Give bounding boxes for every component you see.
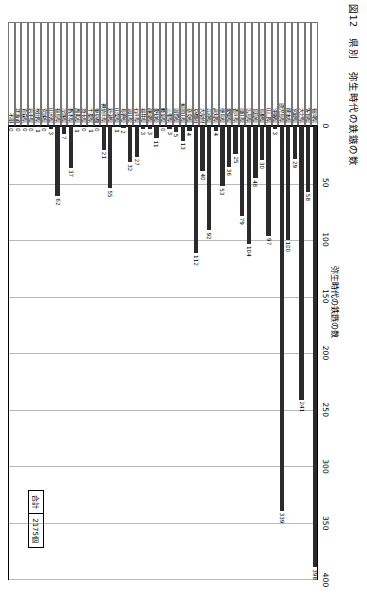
- bar-category-label: 長野県: [120, 22, 127, 126]
- bar-row: 鹿児島県339: [278, 22, 285, 580]
- bar: [247, 126, 251, 244]
- bar-track: 29: [292, 126, 299, 580]
- bar-track: 0: [21, 126, 28, 580]
- bar-value-label: 11: [153, 140, 159, 147]
- bar-value-label: 37: [68, 170, 74, 177]
- bar-row: 栃木県37: [67, 22, 74, 580]
- bar-value-label: 58: [305, 194, 311, 201]
- bar-track: 3: [48, 126, 55, 580]
- bar-row: 宮崎県29: [292, 22, 299, 580]
- bar: [253, 126, 257, 178]
- bar-category-label: 千葉県: [87, 22, 94, 126]
- bar-category-label: 佐賀県: [305, 22, 312, 126]
- bar: [88, 126, 92, 127]
- bar-row: 福島県62: [54, 22, 61, 580]
- x-tick-label: 100: [321, 232, 330, 246]
- bar-row: 富山県32: [127, 22, 134, 580]
- bar-row: 三重県3: [166, 22, 173, 580]
- bar-category-label: 福井県: [140, 22, 147, 126]
- bar-value-label: 3: [272, 131, 278, 135]
- bar-row: 愛知県11: [153, 22, 160, 580]
- bar-category-label: 高知県: [213, 22, 220, 126]
- bar-category-label: 三重県: [166, 22, 173, 126]
- bar: [299, 126, 303, 400]
- bar: [200, 126, 204, 171]
- x-tick-label: 200: [321, 346, 330, 360]
- bar-track: 27: [133, 126, 140, 580]
- bar-row: 山口県97: [265, 22, 272, 580]
- x-axis-ticks: 050100150200250300350400: [318, 126, 330, 580]
- bar-value-label: 92: [206, 232, 212, 239]
- bar-row: 石川県27: [133, 22, 140, 580]
- bar: [62, 126, 66, 134]
- bar-value-label: 1: [35, 129, 41, 133]
- bar-row: 岡山県79: [239, 22, 246, 580]
- bar-value-label: 0: [22, 128, 28, 132]
- bar: [194, 126, 198, 253]
- bar-track: 40: [199, 126, 206, 580]
- bar-category-label: 徳島県: [219, 22, 226, 126]
- bar-category-label: 秋田県: [34, 22, 41, 126]
- bar-value-label: 0: [41, 128, 47, 132]
- bar-row: 山形県3: [48, 22, 55, 580]
- bar-rows: 福岡県398佐賀県58大分県241宮崎県29熊本県100鹿児島県339沖縄県3山…: [8, 22, 318, 580]
- page-title: 図12 県別 弥生時代の鉄鏃の数: [347, 4, 361, 175]
- bar-value-label: 3: [147, 131, 153, 135]
- bar-row: 岐阜県0: [160, 22, 167, 580]
- bar-category-label: 宮城県: [41, 22, 48, 126]
- bar-track: 0: [15, 126, 22, 580]
- chart-plot-area: 弥生時代の鉄鏃の数 050100150200250300350400 福岡県39…: [8, 22, 341, 582]
- bar-row: 茨城県7: [61, 22, 68, 580]
- bar: [187, 126, 191, 131]
- bar-category-label: 青森県: [21, 22, 28, 126]
- bar-value-label: 25: [233, 156, 239, 163]
- bar: [102, 126, 106, 150]
- bar-row: 福岡県398: [311, 22, 318, 580]
- bar-track: 46: [252, 126, 259, 580]
- total-value: 2175個: [29, 514, 43, 547]
- bar-category-label: 不明: [8, 22, 15, 126]
- bar-category-label: 神奈川県: [100, 22, 107, 126]
- bar-category-label: 広島県: [245, 22, 252, 126]
- bar-track: 58: [305, 126, 312, 580]
- x-tick-label: 350: [321, 516, 330, 530]
- bar-category-label: 山口県: [265, 22, 272, 126]
- bar-category-label: 奈良県: [186, 22, 193, 126]
- bar-row: 島根県30: [259, 22, 266, 580]
- bar-track: 97: [265, 126, 272, 580]
- x-tick-label: 300: [321, 459, 330, 473]
- bar-track: 3: [272, 126, 279, 580]
- bar-category-label: 香川県: [232, 22, 239, 126]
- bar-category-label: 熊本県: [285, 22, 292, 126]
- bar-row: 北海道0: [15, 22, 22, 580]
- bar: [293, 126, 297, 159]
- bar: [273, 126, 277, 129]
- bar-category-label: 東京都: [94, 22, 101, 126]
- bar-value-label: 3: [48, 131, 54, 135]
- x-tick-label: 250: [321, 403, 330, 417]
- bar-row: 不明0: [8, 22, 15, 580]
- bar-row: 埼玉県0: [81, 22, 88, 580]
- bar-category-label: 岐阜県: [160, 22, 167, 126]
- bar-value-label: 5: [173, 134, 179, 138]
- bar-track: 3: [147, 126, 154, 580]
- bar-category-label: 富山県: [127, 22, 134, 126]
- bar-category-label: 宮崎県: [292, 22, 299, 126]
- bar-value-label: 97: [266, 238, 272, 245]
- bar: [286, 126, 290, 240]
- bar-track: 53: [219, 126, 226, 580]
- bar: [227, 126, 231, 167]
- bar-category-label: 沖縄県: [272, 22, 279, 126]
- bar-row: 青森県0: [21, 22, 28, 580]
- bar-track: 100: [285, 126, 292, 580]
- bar: [115, 126, 119, 127]
- bar-track: 339: [278, 126, 285, 580]
- bar-value-label: 3: [140, 131, 146, 135]
- bar-category-label: 大阪府: [199, 22, 206, 126]
- bar-value-label: 339: [279, 513, 285, 524]
- bar: [266, 126, 270, 236]
- bar-value-label: 3: [167, 131, 173, 135]
- bar-track: 0: [94, 126, 101, 580]
- bar: [207, 126, 211, 230]
- bar: [181, 126, 185, 141]
